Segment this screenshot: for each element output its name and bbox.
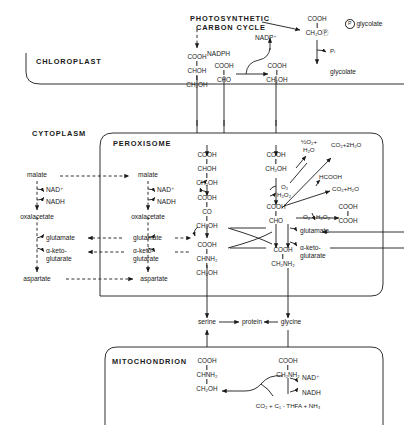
chloroplast-transport-lines [197,76,276,126]
peroxisome-nad-plus: NAD⁺ [157,186,174,193]
peroxisome-aspartate: aspartate [140,275,168,282]
phosphoglycolate-c2: CH₂OⓅ [306,28,329,37]
molecule-phosphoglycolate: COOH CH₂OⓅ [306,14,329,37]
serine-mt-c1: COOH [196,356,217,365]
p-glycolate-group: P glycolate [345,19,382,29]
inorganic-phosphate: Pᵢ [330,48,335,55]
peroxisome-malate: malate [138,171,158,178]
compartment-label-peroxisome: PEROXISOME [113,140,171,148]
serine-px-c2: CHNH₂ [196,254,217,263]
peroxisome-aketoglutarate-l2: glutarate [133,255,159,262]
hydroxypyruvate-c3: CH₂OH [196,221,217,230]
co2-h2o-product: CO₂+H₂O [332,186,359,193]
peroxisome-aketoglutarate-right-l2: glutarate [300,252,326,259]
hydrogen-peroxide-glycolate-oxidase: H₂O₂ [277,192,291,199]
serine-mt-c2: CHNH₂ [196,370,217,379]
glycerate-cp-c2: CHOH [186,66,207,75]
glycolate-cp-c2: CH₂OH [266,75,287,84]
glyoxylate-cp-c2: CHO [214,75,233,84]
cytoplasm-malate: malate [27,171,47,178]
glycerate-cp-c1: COOH [186,52,207,61]
peroxisome-amino-donor-lines [322,232,404,248]
compartment-label-chloroplast: CHLOROPLAST [36,58,102,66]
p-glycolate-label: glycolate [356,20,382,27]
cytoplasm-peroxisome-exchange [60,176,133,279]
mitochondrion-nadh: NADH [302,389,321,396]
molecule-glyoxylate-peroxisome: COOH CHO [266,202,285,225]
protein-pool-glycine: glycine [281,318,302,325]
glycine-mt-c2: CH₂NH₂ [276,370,299,379]
glycerate-px-c3: CH₂OH [196,178,217,187]
molecule-oxalate: COOH COOH [338,202,357,225]
peroxisome-glutamate-right: glutamate [300,227,329,234]
serine-mt-c3: CH₂OH [196,384,217,393]
protein-pool-serine: serine [198,318,216,325]
mitochondrion-nad-plus: NAD⁺ [302,374,319,381]
circled-p-icon: P [345,19,355,29]
glycine-px-c2: CH₂NH₂ [271,259,294,268]
half-o2-h2o-l2: H₂O [303,147,315,154]
glycolate-px-c1: COOH [265,150,286,159]
hydroxypyruvate-c1: COOH [196,193,217,202]
molecule-glycine-peroxisome: COOH CH₂NH₂ [271,245,294,268]
phosphoglycolate-c1: COOH [306,14,329,23]
cytoplasm-shuttle [37,181,44,272]
transamination-crossover [228,228,272,248]
cytoplasm-aketoglutarate-l1: α-keto- [46,247,67,254]
peroxisome-aketoglutarate-l1: α-keto- [133,247,154,254]
molecule-glyoxylate-chloroplast: COOH CHO [214,61,233,84]
serine-px-c3: CH₂OH [196,268,217,277]
glyoxylate-cp-c1: COOH [214,61,233,70]
compartment-label-mitochondrion: MITOCHONDRION [112,358,187,366]
molecule-glycerate-chloroplast: COOH CHOH CH₂OH [186,52,207,89]
photosynthetic-carbon-cycle-line2: CARBON CYCLE [196,24,266,32]
mitochondrion-products: CO₂ + C₁ - THFA + NH₃ [256,403,321,410]
compartment-label-cytoplasm: CYTOPLASM [32,130,86,138]
formic-acid: HCOOH [319,174,342,181]
serine-px-c1: COOH [196,240,217,249]
molecule-glycine-mitochondrion: COOH CH₂NH₂ [276,356,299,379]
molecule-hydroxypyruvate: COOH CO CH₂OH [196,193,217,230]
glyoxylate-oxidation-branches [282,156,339,220]
molecule-serine-peroxisome: COOH CHNH₂ CH₂OH [196,240,217,277]
cytoplasm-aspartate: aspartate [23,275,51,282]
molecule-glycolate-peroxisome: COOH CH₂OH [265,150,286,173]
diagram-canvas: CHLOROPLAST CYTOPLASM PEROXISOME MITOCHO… [0,0,404,425]
cytoplasm-aketoglutarate-l2: glutarate [46,255,72,262]
cytoplasm-glutamate: glutamate [46,234,75,241]
oxygen-glycolate-oxidase: O₂ [281,184,288,191]
glycine-px-c1: COOH [271,245,294,254]
oxalate-c1: COOH [338,202,357,211]
glyoxylate-px-c2: CHO [266,216,285,225]
glycolate-label-chloroplast: glycolate [330,68,356,75]
nadp-plus-chloroplast: NADP⁺ [255,34,277,41]
peroxisome-nadh: NADH [157,198,176,205]
oxalate-c2: COOH [338,216,357,225]
molecule-glycolate-chloroplast: COOH CH₂OH [266,61,287,84]
glycerate-cp-c3: CH₂OH [186,80,207,89]
hydroxypyruvate-c2: CO [196,207,217,216]
glycine-mt-c1: COOH [276,356,299,365]
molecule-glycerate-peroxisome: COOH CHOH CH₂OH [196,150,217,187]
glyoxylate-px-c1: COOH [266,202,285,211]
peroxisome-glutamate: glutamate [133,234,162,241]
glycerate-px-c1: COOH [196,150,217,159]
half-o2-h2o-l1: ½O₂+ [301,139,317,146]
molecule-serine-mitochondrion: COOH CHNH₂ CH₂OH [196,356,217,393]
photosynthetic-carbon-cycle-line1: PHOTOSYNTHETIC [190,15,270,23]
glycerate-px-c2: CHOH [196,164,217,173]
protein-pool-protein: protein [242,318,262,325]
co2-2h2o-product: CO₂+2H₂O [331,142,361,149]
oxygen-glyoxylate-oxidase: O₂ [303,214,310,221]
cytoplasm-oxalacetate: oxalacetate [20,213,54,220]
glycolate-cp-c1: COOH [266,61,287,70]
cytoplasm-nad-plus: NAD⁺ [46,186,63,193]
cytoplasm-nadh: NADH [46,198,65,205]
peroxisome-aketoglutarate-right-l1: α-keto- [300,244,321,251]
nadph-chloroplast: NADPH [207,50,230,57]
glycolate-px-c2: CH₂OH [265,164,286,173]
hydrogen-peroxide-glyoxylate-oxidase: H₂O₂ [316,214,330,221]
peroxisome-oxalacetate: oxalacetate [131,213,165,220]
